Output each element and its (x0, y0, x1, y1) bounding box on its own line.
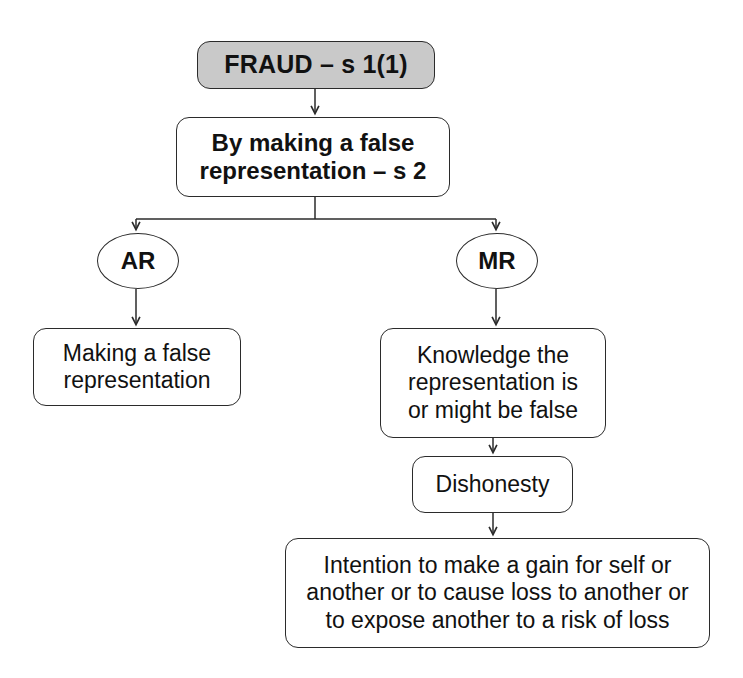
node-dishonesty[interactable]: Dishonesty (412, 456, 573, 513)
node-mens-rea[interactable]: MR (456, 233, 538, 289)
edge-false-representation-split (136, 197, 496, 229)
flowchart-canvas: FRAUD – s 1(1) By making a false represe… (0, 0, 743, 678)
node-making-false-representation[interactable]: Making a false representation (33, 328, 241, 406)
node-intention-to-gain-or-cause-loss[interactable]: Intention to make a gain for self or ano… (285, 538, 710, 648)
node-knowledge-representation-false[interactable]: Knowledge the representation is or might… (380, 328, 606, 438)
node-fraud[interactable]: FRAUD – s 1(1) (197, 41, 435, 89)
node-false-representation[interactable]: By making a false representation – s 2 (176, 117, 450, 197)
node-actus-reus[interactable]: AR (97, 233, 179, 289)
